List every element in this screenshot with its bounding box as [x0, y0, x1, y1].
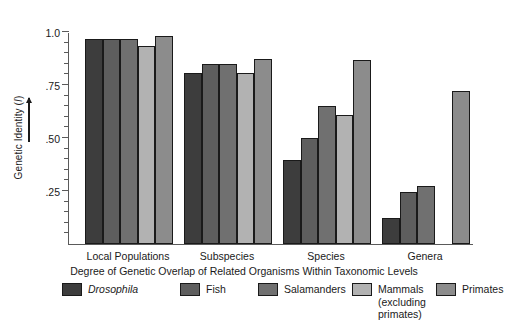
- legend-label: Salamanders: [284, 283, 346, 296]
- legend-label: Fish: [206, 283, 226, 296]
- y-axis-major-tick: [62, 137, 69, 138]
- bar: [417, 186, 435, 244]
- y-axis-minor-tick: [64, 232, 69, 233]
- bar: [301, 138, 319, 244]
- y-axis-minor-tick: [64, 42, 69, 43]
- bar: [155, 36, 173, 244]
- legend-label: Primates: [462, 283, 503, 296]
- y-axis-tick-label: .50: [45, 134, 60, 145]
- legend-label: Mammals (excluding primates): [378, 283, 426, 321]
- legend-item: Mammals (excluding primates): [352, 283, 426, 321]
- legend-item: Primates: [436, 283, 503, 296]
- y-axis-minor-tick: [64, 52, 69, 53]
- legend-label: Drosophila: [88, 283, 138, 296]
- bar: [336, 115, 354, 244]
- bar-group: [85, 33, 173, 244]
- y-axis-minor-tick: [64, 169, 69, 170]
- y-axis-arrow-icon: [28, 98, 30, 142]
- bar: [318, 106, 336, 244]
- bar: [353, 60, 371, 244]
- bar: [283, 160, 301, 244]
- x-axis-caption: Degree of Genetic Overlap of Related Org…: [0, 265, 488, 277]
- legend-item: Drosophila: [62, 283, 138, 296]
- x-axis-category-label: Genera: [345, 250, 505, 262]
- bar: [254, 59, 272, 245]
- bar: [400, 192, 418, 244]
- legend-swatch: [352, 283, 372, 296]
- y-axis-minor-tick: [64, 211, 69, 212]
- y-axis-label-suffix: ): [13, 96, 24, 99]
- bar: [219, 64, 237, 244]
- bar-group: [382, 33, 470, 244]
- y-axis-minor-tick: [64, 116, 69, 117]
- bar: [85, 39, 103, 244]
- plot-area: 1.0.75.50.25: [68, 33, 473, 245]
- y-axis-minor-tick: [64, 179, 69, 180]
- y-axis-minor-tick: [64, 148, 69, 149]
- bar: [202, 64, 220, 244]
- y-axis-minor-tick: [64, 95, 69, 96]
- y-axis-label-prefix: Genetic Identity (: [13, 102, 24, 179]
- bar: [138, 46, 156, 244]
- legend-swatch: [436, 283, 456, 296]
- bar-group: [283, 33, 371, 244]
- y-axis-minor-tick: [64, 63, 69, 64]
- y-axis-minor-tick: [64, 126, 69, 127]
- y-axis-tick-label: .75: [45, 81, 60, 92]
- y-axis-major-tick: [62, 190, 69, 191]
- legend-swatch: [180, 283, 200, 296]
- y-axis-minor-tick: [64, 73, 69, 74]
- y-axis-minor-tick: [64, 201, 69, 202]
- y-axis-label: Genetic Identity (I): [13, 58, 24, 218]
- y-axis-label-symbol: I: [13, 99, 24, 102]
- bar: [184, 73, 202, 244]
- y-axis-minor-tick: [64, 222, 69, 223]
- y-axis-major-tick: [62, 84, 69, 85]
- legend-swatch: [258, 283, 278, 296]
- bar: [452, 91, 470, 244]
- bar-group: [184, 33, 272, 244]
- bar: [120, 39, 138, 244]
- y-axis-label-group: Genetic Identity (I): [4, 36, 28, 246]
- bar: [237, 73, 255, 244]
- y-axis-tick-label: .25: [45, 187, 60, 198]
- legend-item: Fish: [180, 283, 226, 296]
- y-axis-major-tick: [62, 31, 69, 32]
- chart-legend: DrosophilaFishSalamandersMammals (exclud…: [62, 283, 482, 321]
- y-axis-minor-tick: [64, 158, 69, 159]
- legend-item: Salamanders: [258, 283, 346, 296]
- legend-swatch: [62, 283, 82, 296]
- bar: [382, 218, 400, 245]
- y-axis-tick-label: 1.0: [45, 28, 60, 39]
- y-axis-minor-tick: [64, 105, 69, 106]
- bar: [103, 39, 121, 244]
